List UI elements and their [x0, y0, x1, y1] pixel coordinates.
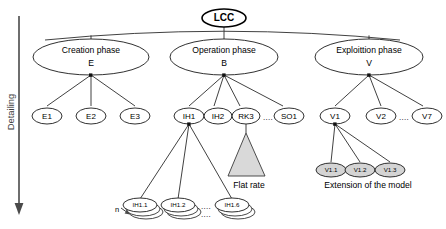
leaf-node-v2[interactable]: V2 — [366, 108, 396, 124]
diagram-canvas: Detailing LCC Creation phase E Operation… — [0, 0, 446, 229]
v1-junction-dot — [333, 122, 336, 125]
phase-node-exploitation[interactable]: Exploittion phase V — [315, 39, 423, 75]
leaf-node-v7[interactable]: V7 — [412, 108, 442, 124]
edge-creation-e1 — [47, 75, 91, 106]
leaf-ih1-label: IH1 — [183, 112, 196, 121]
stack-node-ih1-2[interactable]: IH1.2 — [161, 198, 201, 219]
leaf-e3-label: E3 — [130, 112, 140, 121]
leaf-node-ih2[interactable]: IH2 — [204, 108, 232, 124]
leaf-node-e2[interactable]: E2 — [76, 108, 106, 124]
stack-ih1-6-label: IH1.6 — [225, 201, 240, 208]
sub-node-v1-1[interactable]: V1.1 — [316, 163, 346, 177]
phase-creation-code: E — [88, 58, 94, 68]
leaf-node-rk3[interactable]: RK3 — [232, 108, 260, 124]
edge-exploitation-v7 — [369, 75, 423, 106]
lcc-tree-diagram: Detailing LCC Creation phase E Operation… — [0, 0, 446, 229]
flat-rate-triangle-icon — [228, 133, 265, 176]
leaf-node-v1[interactable]: V1 — [320, 108, 350, 124]
ih1-fanout-edges — [140, 122, 232, 199]
creation-junction-dot — [89, 73, 92, 76]
ih1-ellipsis-bottom: .... — [201, 210, 211, 219]
ih1-junction-dot — [187, 122, 190, 125]
phase-operation-code: B — [221, 58, 227, 68]
exploitation-junction-dot — [367, 73, 370, 76]
detailing-axis-label: Detailing — [5, 94, 16, 130]
stack-ih1-1-label: IH1.1 — [133, 201, 148, 208]
leaf-e2-label: E2 — [86, 112, 96, 121]
edge-ih1-to-ih1-6 — [189, 124, 232, 199]
multiplicity-label: n — [115, 205, 119, 214]
edge-v1-to-v1-1 — [331, 124, 335, 162]
phase-node-operation[interactable]: Operation phase B — [170, 39, 278, 75]
phase-operation-label: Operation phase — [192, 45, 256, 55]
leaf-v1-label: V1 — [330, 112, 340, 121]
sub-v1-3-label: V1.3 — [384, 166, 397, 173]
root-node-label: LCC — [214, 12, 235, 23]
leaf-e1-label: E1 — [42, 112, 52, 121]
sub-v1-2-label: V1.2 — [354, 166, 367, 173]
detailing-axis-arrowhead — [15, 203, 24, 215]
exploitation-fanout-edges — [335, 73, 423, 106]
leaf-rk3-label: RK3 — [238, 112, 254, 121]
leaf-v2-label: V2 — [376, 112, 386, 121]
stack-node-ih1-1[interactable]: IH1.1 — [123, 198, 163, 219]
edge-exploitation-v2 — [369, 75, 381, 106]
leaf-ih2-label: IH2 — [212, 112, 225, 121]
edge-v1-to-v1-3 — [335, 124, 390, 162]
extension-caption: Extension of the model — [324, 180, 412, 190]
phase-node-creation[interactable]: Creation phase E — [33, 39, 149, 75]
edge-v1-to-v1-2 — [335, 124, 360, 162]
flat-rate-annotation: Flat rate — [228, 124, 265, 190]
root-node-lcc[interactable]: LCC — [202, 9, 246, 27]
edge-creation-e3 — [91, 75, 135, 106]
flat-rate-label: Flat rate — [233, 180, 265, 190]
creation-fanout-edges — [47, 73, 135, 106]
leaf-node-so1[interactable]: SO1 — [274, 108, 304, 124]
sub-node-v1-2[interactable]: V1.2 — [345, 163, 375, 177]
sub-v1-1-label: V1.1 — [325, 166, 338, 173]
detailing-axis: Detailing — [5, 16, 23, 215]
leaf-node-ih1[interactable]: IH1 — [174, 108, 204, 124]
leaf-so1-label: SO1 — [281, 112, 298, 121]
operation-fanout-edges — [189, 73, 283, 106]
phase-exploitation-code: V — [366, 58, 372, 68]
exploitation-ellipsis: .... — [399, 113, 409, 122]
stack-ih1-2-label: IH1.2 — [171, 201, 186, 208]
stack-node-ih1-6[interactable]: IH1.6 — [215, 198, 255, 219]
phase-creation-label: Creation phase — [62, 45, 121, 55]
phase-exploitation-label: Exploittion phase — [336, 45, 402, 55]
leaf-v7-label: V7 — [422, 112, 432, 121]
edge-operation-so1 — [224, 75, 283, 106]
leaf-node-e3[interactable]: E3 — [120, 108, 150, 124]
leaf-node-e1[interactable]: E1 — [32, 108, 62, 124]
sub-node-v1-3[interactable]: V1.3 — [375, 163, 405, 177]
edge-exploitation-v1 — [335, 75, 369, 106]
operation-ellipsis: .... — [263, 113, 273, 122]
operation-junction-dot — [222, 73, 225, 76]
edge-ih1-to-ih1-1 — [140, 124, 189, 199]
edge-ih1-to-ih1-2 — [178, 124, 189, 199]
v1-fanout-edges — [331, 122, 390, 162]
